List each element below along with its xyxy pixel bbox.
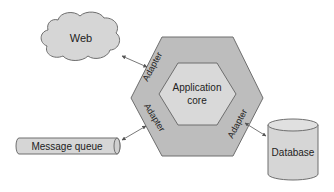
database-cylinder: Database bbox=[268, 119, 318, 180]
message-queue-label: Message queue bbox=[31, 141, 103, 152]
hexagonal-architecture-diagram: Web Application core Adapter Adapter Ada… bbox=[0, 0, 334, 192]
queue-adapter-arrow bbox=[122, 126, 146, 140]
web-adapter-arrow bbox=[122, 56, 147, 67]
web-label: Web bbox=[70, 32, 92, 44]
database-adapter-arrow bbox=[245, 123, 266, 136]
message-queue-pipe: Message queue bbox=[16, 138, 120, 154]
database-label: Database bbox=[272, 147, 315, 158]
web-cloud: Web bbox=[41, 12, 119, 60]
core-label-line1: Application bbox=[173, 82, 222, 93]
core-label-line2: core bbox=[187, 95, 207, 106]
